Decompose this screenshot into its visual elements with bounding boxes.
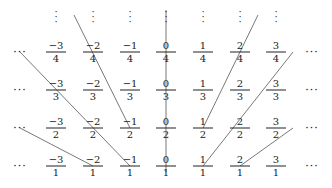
numerator: 0 xyxy=(154,41,178,51)
fraction: 01 xyxy=(154,155,178,178)
vertical-ellipsis: ··· xyxy=(274,9,277,24)
numerator: 0 xyxy=(154,155,178,165)
numerator: −3 xyxy=(44,155,68,165)
denominator: 2 xyxy=(81,130,105,140)
numerator: 2 xyxy=(228,41,252,51)
enumeration-line xyxy=(74,15,130,128)
fraction: 13 xyxy=(191,79,215,102)
fraction: −12 xyxy=(118,117,142,140)
horizontal-ellipsis-left: ··· xyxy=(13,84,27,97)
fraction: −23 xyxy=(81,79,105,102)
horizontal-ellipsis-right: ··· xyxy=(305,84,319,97)
vertical-ellipsis: ··· xyxy=(238,9,241,24)
denominator: 1 xyxy=(264,168,288,178)
fraction: 34 xyxy=(264,41,288,64)
numerator: −1 xyxy=(118,79,142,89)
numerator: 2 xyxy=(228,117,252,127)
fraction: −22 xyxy=(81,117,105,140)
fraction: 21 xyxy=(228,155,252,178)
enumeration-line xyxy=(203,52,293,166)
numerator: 1 xyxy=(191,41,215,51)
horizontal-ellipsis-right: ··· xyxy=(305,46,319,59)
numerator: 0 xyxy=(154,79,178,89)
denominator: 2 xyxy=(191,130,215,140)
fraction: 03 xyxy=(154,79,178,102)
fraction: 24 xyxy=(228,41,252,64)
denominator: 3 xyxy=(118,92,142,102)
fraction: 04 xyxy=(154,41,178,64)
denominator: 3 xyxy=(44,92,68,102)
denominator: 4 xyxy=(81,54,105,64)
numerator: 0 xyxy=(154,117,178,127)
fraction: 32 xyxy=(264,117,288,140)
vertical-ellipsis: ··· xyxy=(201,9,204,24)
fraction: −33 xyxy=(44,79,68,102)
denominator: 1 xyxy=(81,168,105,178)
numerator: 2 xyxy=(228,155,252,165)
horizontal-ellipsis-right: ··· xyxy=(305,160,319,173)
vertical-ellipsis: ··· xyxy=(54,9,57,24)
numerator: −3 xyxy=(44,79,68,89)
numerator: −1 xyxy=(118,117,142,127)
denominator: 2 xyxy=(154,130,178,140)
numerator: 1 xyxy=(191,155,215,165)
numerator: 3 xyxy=(264,117,288,127)
denominator: 3 xyxy=(154,92,178,102)
denominator: 4 xyxy=(228,54,252,64)
fraction: 23 xyxy=(228,79,252,102)
fraction: 14 xyxy=(191,41,215,64)
fraction: −31 xyxy=(44,155,68,178)
denominator: 2 xyxy=(228,130,252,140)
denominator: 3 xyxy=(191,92,215,102)
numerator: −3 xyxy=(44,117,68,127)
numerator: −2 xyxy=(81,79,105,89)
fraction: 31 xyxy=(264,155,288,178)
denominator: 3 xyxy=(228,92,252,102)
denominator: 3 xyxy=(81,92,105,102)
numerator: −1 xyxy=(118,41,142,51)
horizontal-ellipsis-left: ··· xyxy=(13,160,27,173)
horizontal-ellipsis-left: ··· xyxy=(13,122,27,135)
vertical-ellipsis: ··· xyxy=(164,9,167,24)
denominator: 4 xyxy=(154,54,178,64)
numerator: 3 xyxy=(264,79,288,89)
numerator: 2 xyxy=(228,79,252,89)
denominator: 1 xyxy=(154,168,178,178)
denominator: 1 xyxy=(44,168,68,178)
numerator: 3 xyxy=(264,155,288,165)
denominator: 4 xyxy=(44,54,68,64)
numerator: 1 xyxy=(191,79,215,89)
denominator: 2 xyxy=(264,130,288,140)
fraction: 12 xyxy=(191,117,215,140)
fraction: −32 xyxy=(44,117,68,140)
enumeration-line xyxy=(203,15,258,128)
denominator: 4 xyxy=(118,54,142,64)
numerator: 3 xyxy=(264,41,288,51)
denominator: 1 xyxy=(118,168,142,178)
fraction: −13 xyxy=(118,79,142,102)
denominator: 1 xyxy=(228,168,252,178)
denominator: 3 xyxy=(264,92,288,102)
vertical-ellipsis: ··· xyxy=(128,9,131,24)
denominator: 1 xyxy=(191,168,215,178)
fraction: 11 xyxy=(191,155,215,178)
numerator: −3 xyxy=(44,41,68,51)
horizontal-ellipsis-left: ··· xyxy=(13,46,27,59)
fraction: 02 xyxy=(154,117,178,140)
fraction: −21 xyxy=(81,155,105,178)
fraction: −24 xyxy=(81,41,105,64)
vertical-ellipsis: ··· xyxy=(91,9,94,24)
numerator: −2 xyxy=(81,41,105,51)
numerator: −1 xyxy=(118,155,142,165)
denominator: 4 xyxy=(264,54,288,64)
numerator: −2 xyxy=(81,117,105,127)
fraction: −34 xyxy=(44,41,68,64)
enumeration-line xyxy=(20,52,130,166)
fraction: 22 xyxy=(228,117,252,140)
denominator: 4 xyxy=(191,54,215,64)
denominator: 2 xyxy=(118,130,142,140)
numerator: 1 xyxy=(191,117,215,127)
fraction: 33 xyxy=(264,79,288,102)
fraction: −14 xyxy=(118,41,142,64)
horizontal-ellipsis-right: ··· xyxy=(305,122,319,135)
